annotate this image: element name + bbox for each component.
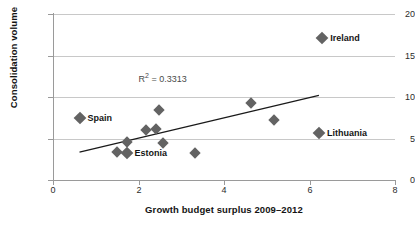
point-label-estonia: Estonia bbox=[135, 149, 168, 158]
point-label-ireland: Ireland bbox=[330, 34, 360, 43]
r-squared-label: R2 = 0.3313 bbox=[139, 72, 187, 84]
point-label-lithuania: Lithuania bbox=[327, 129, 367, 138]
scatter-chart: Consolidation volume Growth budget surpl… bbox=[0, 0, 415, 230]
point-label-spain: Spain bbox=[88, 114, 113, 123]
